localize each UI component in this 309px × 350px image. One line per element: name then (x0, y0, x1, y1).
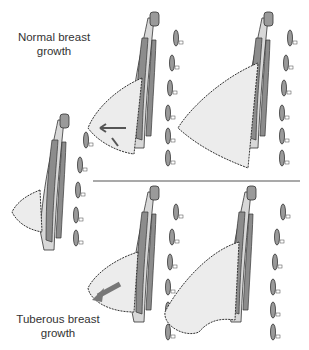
figure-tuberous-mature (165, 186, 290, 340)
figure-normal-mature (178, 12, 297, 168)
breast-growth-diagram (0, 0, 309, 350)
figure-normal-developing (88, 12, 183, 166)
figure-prepubertal (12, 114, 93, 250)
